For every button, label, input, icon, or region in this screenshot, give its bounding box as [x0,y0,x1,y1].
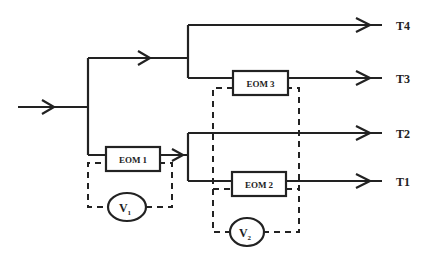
input-path [18,100,88,114]
eom2-box: EOM 2 [232,172,286,196]
upper-branch [88,25,188,78]
output-label-t2: T2 [396,127,410,141]
output-label-t1: T1 [396,175,410,189]
v1-source: V1 [108,193,146,221]
eom3-label: EOM 3 [246,79,275,89]
switch-tree-diagram: EOM 1 EOM 3 EOM 2 V1 V2 T4 T3 T2 T1 [0,0,430,260]
eom1-box: EOM 1 [106,147,160,171]
eom1-label: EOM 1 [119,155,148,165]
v2-source: V2 [230,218,264,246]
eom2-label: EOM 2 [245,180,274,190]
output-label-t3: T3 [396,72,410,86]
output-t4-path [188,18,382,32]
eom3-box: EOM 3 [233,71,288,95]
output-label-t4: T4 [396,19,410,33]
output-t2-path [188,126,382,140]
v2-control-loop [213,88,299,232]
